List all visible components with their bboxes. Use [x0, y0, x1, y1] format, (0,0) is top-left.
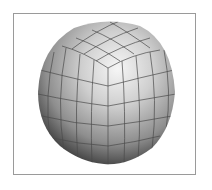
quad-sphere-render — [0, 0, 212, 190]
